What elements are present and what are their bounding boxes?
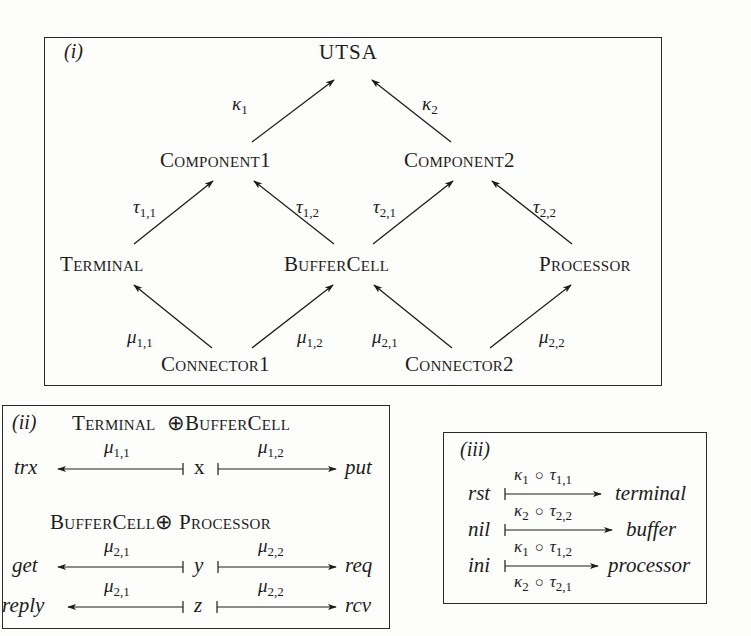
term-ini: ini	[468, 553, 490, 578]
term-nil: nil	[468, 517, 490, 542]
label-k2-tau21: κ2○τ2,1	[514, 572, 572, 595]
label-k2-tau22: κ2○τ2,2	[514, 501, 572, 524]
term-buffer: buffer	[626, 517, 676, 542]
term-processor: processor	[608, 553, 690, 578]
label-k1-tau11: κ1○τ1,1	[514, 465, 572, 488]
diagram-iii-tag: (iii)	[460, 438, 490, 461]
term-rst: rst	[468, 481, 490, 506]
term-terminal: terminal	[615, 481, 686, 506]
label-k1-tau12: κ1○τ1,2	[514, 537, 572, 560]
